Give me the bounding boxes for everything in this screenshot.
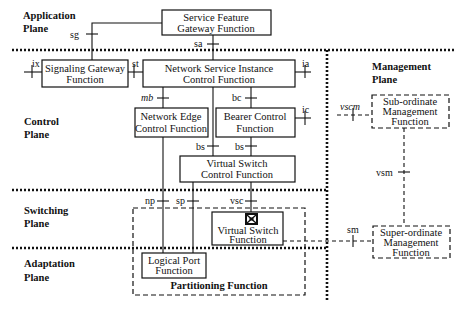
svg-text:Function: Function: [155, 265, 193, 276]
svg-text:Control Function: Control Function: [201, 169, 274, 180]
svg-text:Switching: Switching: [24, 205, 69, 216]
virtual-switch-function: Virtual Switch Function: [212, 212, 283, 245]
sp-label: sp: [176, 195, 185, 206]
application-plane-label: Application Plane: [23, 10, 76, 34]
virtual-switch-control-function: Virtual Switch Control Function: [180, 156, 295, 182]
sub-ordinate-management-function: Sub-ordinate Management Function: [372, 95, 449, 128]
sg-label: sg: [70, 29, 79, 40]
logical-port-function: Logical Port Function: [142, 253, 206, 278]
mb-label: mb: [141, 92, 153, 103]
adaptation-plane-label: Adaptation Plane: [24, 258, 75, 283]
switch-icon: [245, 213, 258, 225]
svg-text:Plane: Plane: [24, 218, 49, 229]
vscm-label: vscm: [340, 101, 360, 112]
svg-text:Function: Function: [392, 247, 430, 258]
control-plane-label: Control Plane: [24, 116, 59, 140]
svg-text:Service Feature: Service Feature: [183, 12, 249, 23]
svg-text:Control Function: Control Function: [135, 123, 208, 134]
svg-text:Network Edge: Network Edge: [141, 111, 202, 122]
bs-left-label: bs: [196, 141, 205, 152]
svg-text:Adaptation: Adaptation: [24, 258, 75, 269]
architecture-diagram: Application Plane Control Plane Switchin…: [0, 0, 466, 310]
svg-text:Virtual Switch: Virtual Switch: [207, 158, 269, 169]
sa-label: sa: [194, 38, 203, 49]
sm-label: sm: [347, 224, 359, 235]
svg-text:Function: Function: [391, 116, 429, 127]
st-label: st: [132, 58, 139, 69]
np-label: np: [145, 195, 155, 206]
bs-right-label: bs: [235, 141, 244, 152]
network-edge-control-function: Network Edge Control Function: [135, 108, 208, 137]
partitioning-function-label: Partitioning Function: [170, 280, 267, 291]
svg-text:Plane: Plane: [372, 74, 397, 85]
sg-link: [92, 23, 162, 60]
svg-text:Signaling Gateway: Signaling Gateway: [45, 63, 126, 74]
svg-text:Control Function: Control Function: [183, 74, 256, 85]
super-ordinate-management-function: Super-ordinate Management Function: [373, 226, 450, 258]
svg-text:Bearer Control: Bearer Control: [224, 111, 287, 122]
svg-text:Function: Function: [66, 74, 104, 85]
svg-text:Plane: Plane: [24, 129, 49, 140]
vsc-label: vsc: [230, 195, 244, 206]
svg-text:Control: Control: [24, 116, 59, 127]
svg-text:Plane: Plane: [24, 272, 49, 283]
svg-text:Network Service Instance: Network Service Instance: [165, 63, 274, 74]
switching-plane-label: Switching Plane: [24, 205, 69, 229]
bearer-control-function: Bearer Control Function: [216, 108, 295, 137]
svg-text:Management: Management: [372, 61, 431, 72]
svg-text:Function: Function: [236, 123, 274, 134]
signaling-gateway-function: Signaling Gateway Function: [42, 60, 128, 87]
ic-label: ic: [302, 104, 310, 115]
service-feature-gateway-function: Service Feature Gateway Function: [162, 10, 271, 35]
vsm-label: vsm: [376, 167, 393, 178]
svg-text:Function: Function: [229, 234, 267, 245]
svg-text:Plane: Plane: [23, 23, 48, 34]
ix-label: ix: [32, 58, 40, 69]
network-service-instance-control-function: Network Service Instance Control Functio…: [143, 60, 295, 87]
svg-text:Application: Application: [23, 10, 76, 21]
management-plane-label: Management Plane: [372, 61, 431, 85]
ia-label: ia: [302, 58, 310, 69]
svg-text:Gateway Function: Gateway Function: [177, 23, 255, 34]
bc-label: bc: [232, 92, 242, 103]
